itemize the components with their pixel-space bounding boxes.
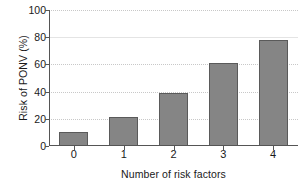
x-tick-label: 2: [149, 148, 199, 160]
x-tick-label: 1: [99, 148, 149, 160]
bar-2: [159, 93, 188, 146]
x-tick-label: 0: [49, 148, 99, 160]
bar-1: [109, 117, 138, 146]
y-tick-label: 100: [28, 4, 46, 16]
bar-series: [49, 10, 298, 146]
bar-3: [209, 63, 238, 146]
bar-0: [59, 132, 88, 146]
bar-4: [259, 40, 288, 146]
plot-area: [49, 10, 298, 146]
bar-slot-0: [49, 10, 99, 146]
y-tick-mark: [45, 146, 49, 147]
bar-slot-3: [198, 10, 248, 146]
x-axis-tick-labels: 0 1 2 3 4: [49, 148, 298, 160]
y-axis-tick-labels: 0 20 40 60 80 100: [16, 10, 46, 146]
bar-slot-1: [99, 10, 149, 146]
plot-inner: [49, 10, 298, 146]
x-axis-spine: [49, 145, 298, 146]
x-tick-label: 3: [198, 148, 248, 160]
y-axis-spine: [49, 10, 50, 146]
x-axis-label: Number of risk factors: [49, 168, 298, 180]
bar-chart-figure: Risk of PONV (%) 0 20 40 60 80 100: [0, 0, 305, 190]
bar-slot-2: [149, 10, 199, 146]
x-tick-label: 4: [248, 148, 298, 160]
bar-slot-4: [248, 10, 298, 146]
